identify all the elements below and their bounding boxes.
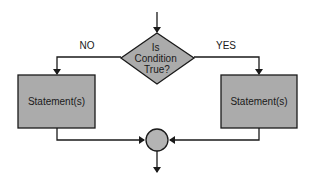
left-statement-label: Statement(s) — [28, 96, 85, 107]
decision-line-1: Is — [152, 42, 160, 53]
yes-label: YES — [216, 40, 236, 51]
decision-line-3: True? — [144, 64, 170, 75]
junction-circle — [146, 129, 168, 151]
no-label: NO — [80, 40, 95, 51]
no-branch-connector — [57, 57, 121, 74]
yes-branch-connector — [194, 57, 259, 74]
right-statement-label: Statement(s) — [230, 96, 287, 107]
decision-line-2: Condition — [134, 53, 176, 64]
left-merge-connector — [57, 128, 144, 140]
flowchart: Is Condition True? NO YES Statement(s) S… — [0, 0, 310, 184]
right-merge-connector — [170, 128, 259, 140]
